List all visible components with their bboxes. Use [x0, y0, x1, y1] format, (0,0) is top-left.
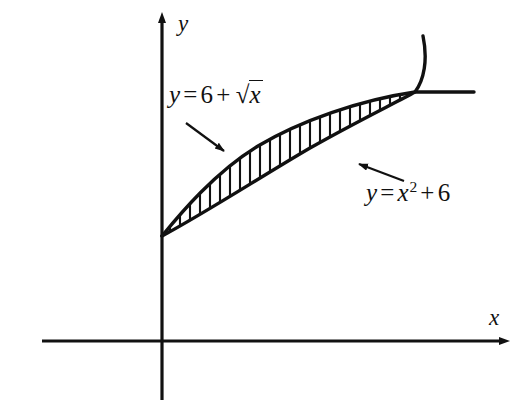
- y-axis-label: y: [178, 12, 188, 35]
- label-upper-equals: =: [180, 81, 200, 108]
- label-lower-constant: 6: [438, 179, 451, 206]
- curve-sqrt: [162, 92, 474, 236]
- label-upper-constant: 6: [201, 81, 214, 108]
- label-upper-plus: +: [213, 81, 233, 108]
- figure-canvas: [0, 0, 530, 418]
- label-lower-lhs: y: [366, 179, 377, 206]
- label-upper-radicand: x: [249, 80, 263, 107]
- sqrt-icon: √x: [234, 80, 263, 107]
- label-lower-plus: +: [417, 179, 437, 206]
- arrow-to-upper-curve: [186, 123, 224, 151]
- math-figure: y=6+√x y=x2+6 y x: [0, 0, 530, 418]
- label-upper-lhs: y: [169, 81, 180, 108]
- curve-parabola: [162, 36, 425, 236]
- label-upper-curve: y=6+√x: [169, 80, 263, 107]
- label-lower-equals: =: [377, 179, 397, 206]
- label-lower-base: x: [398, 179, 409, 206]
- label-lower-curve: y=x2+6: [366, 180, 450, 205]
- radical-sign: √: [236, 81, 250, 108]
- x-axis-label: x: [489, 306, 499, 329]
